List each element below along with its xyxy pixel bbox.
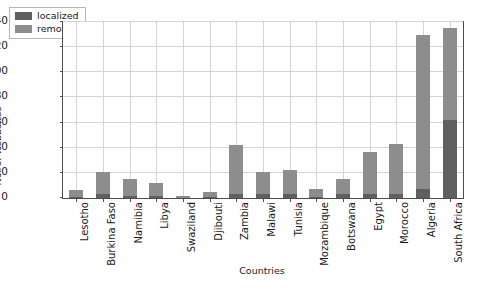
bar-segment-localized [389, 194, 403, 198]
x-tick-mark [343, 198, 344, 202]
bar-segment-remote [176, 196, 190, 199]
bar-segment-remote [389, 144, 403, 194]
bar-segment-localized [203, 197, 217, 198]
bar-segment-localized [283, 194, 297, 198]
bar-stack [443, 28, 457, 198]
x-tick-mark [423, 198, 424, 202]
x-tick-label: Morocco [399, 202, 410, 244]
x-tick-mark [396, 198, 397, 202]
legend-swatch-remote [15, 25, 32, 33]
x-tick-label: Malawi [266, 202, 277, 237]
legend-swatch-localized [15, 12, 32, 20]
y-tick-label: 140 [0, 15, 8, 26]
bar-series-container [63, 22, 463, 198]
x-tick-label: Lesotho [79, 202, 90, 241]
y-tick-label: 0 [1, 191, 8, 202]
bar-segment-localized [416, 189, 430, 198]
x-tick-label: Libya [159, 202, 170, 229]
x-tick-label: Mozambique [319, 202, 330, 266]
bar-stack [389, 144, 403, 198]
bar-segment-localized [69, 197, 83, 198]
x-tick-label: Djibouti [213, 202, 224, 241]
y-tick-label: 80 [0, 90, 8, 101]
bar-segment-remote [229, 145, 243, 194]
bar-stack [336, 179, 350, 198]
y-tick-label: 120 [0, 40, 8, 51]
y-tick-label: 100 [0, 65, 8, 76]
x-tick-mark [370, 198, 371, 202]
x-tick-label: Tunisia [293, 202, 304, 236]
bar-segment-remote [309, 189, 323, 197]
x-tick-mark [130, 198, 131, 202]
y-tick-label: 60 [0, 116, 8, 127]
bar-stack [256, 172, 270, 198]
bar-segment-remote [123, 179, 137, 195]
bar-segment-localized [123, 196, 137, 199]
x-axis-label: Countries [62, 265, 462, 276]
bar-segment-localized [363, 194, 377, 198]
bar-segment-localized [96, 194, 110, 198]
bar-segment-localized [256, 194, 270, 198]
bar-segment-remote [363, 152, 377, 195]
y-tick-label: 20 [0, 166, 8, 177]
bar-stack [416, 35, 430, 198]
x-tick-mark [156, 198, 157, 202]
bar-stack [149, 183, 163, 198]
bar-stack [283, 170, 297, 198]
x-tick-mark [290, 198, 291, 202]
legend-label-localized: localized [37, 11, 79, 21]
x-tick-label: Swaziland [186, 202, 197, 252]
chart-figure: localized remote No. of webbsites 020406… [0, 0, 480, 291]
bar-stack [203, 192, 217, 198]
x-tick-mark [316, 198, 317, 202]
y-tick-label: 40 [0, 141, 8, 152]
legend-item-localized: localized [15, 11, 79, 21]
plot-area [62, 21, 464, 199]
x-tick-label: Zambia [239, 202, 250, 240]
bar-segment-localized [229, 194, 243, 198]
bar-segment-remote [96, 172, 110, 195]
bar-segment-localized [309, 197, 323, 198]
bar-stack [69, 190, 83, 198]
x-tick-mark [263, 198, 264, 202]
bar-segment-remote [256, 172, 270, 195]
x-tick-label: Namibia [133, 202, 144, 243]
x-tick-mark [103, 198, 104, 202]
bar-stack [229, 145, 243, 198]
x-tick-label: Algeria [426, 202, 437, 237]
bar-segment-remote [443, 28, 457, 120]
x-tick-mark [210, 198, 211, 202]
x-tick-mark [76, 198, 77, 202]
bar-segment-localized [443, 120, 457, 198]
x-tick-label: Burkina Faso [106, 202, 117, 266]
bar-segment-localized [336, 194, 350, 198]
x-tick-mark [183, 198, 184, 202]
x-tick-label: Egypt [373, 202, 384, 231]
bar-stack [309, 189, 323, 198]
bar-segment-localized [149, 196, 163, 199]
x-tick-mark [450, 198, 451, 202]
bar-stack [363, 152, 377, 199]
bar-segment-remote [416, 35, 430, 190]
x-tick-label: Botswana [346, 202, 357, 251]
bar-stack [123, 179, 137, 198]
bar-segment-remote [336, 179, 350, 194]
bar-stack [176, 196, 190, 199]
bar-stack [96, 172, 110, 198]
x-tick-label: South Africa [453, 202, 464, 263]
bar-segment-remote [149, 183, 163, 196]
x-tick-mark [236, 198, 237, 202]
bar-segment-remote [283, 170, 297, 194]
